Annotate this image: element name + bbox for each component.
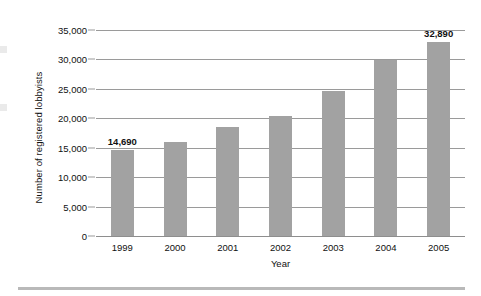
y-axis-tick-mark <box>88 30 95 31</box>
bar-value-label-2005: 32,890 <box>424 28 453 39</box>
y-axis-tick-mark <box>88 236 95 237</box>
bar-2005 <box>427 42 450 236</box>
y-axis-tick-label: 5,000 <box>63 201 87 212</box>
y-axis-tick-label: 15,000 <box>58 142 87 153</box>
y-axis-tick-mark <box>88 206 95 207</box>
bar-2003 <box>322 91 345 236</box>
x-axis-title: Year <box>96 258 465 269</box>
gridline <box>96 59 465 60</box>
footer-divider <box>18 287 465 290</box>
cropped-text-fragment-middle <box>0 104 7 111</box>
y-axis-tick-label: 35,000 <box>58 25 87 36</box>
y-axis-tick-label: 30,000 <box>58 54 87 65</box>
x-axis-tick-label-2003: 2003 <box>323 242 344 253</box>
gridline <box>96 30 465 31</box>
bar-2002 <box>269 116 292 236</box>
bar-value-label-1999: 14,690 <box>108 136 137 147</box>
x-axis-tick-label-2000: 2000 <box>164 242 185 253</box>
x-axis-tick-label-1999: 1999 <box>112 242 133 253</box>
bar-2001 <box>216 127 239 236</box>
y-axis-tick-mark <box>88 118 95 119</box>
x-axis-tick-label-2005: 2005 <box>428 242 449 253</box>
x-axis-tick-label-2004: 2004 <box>375 242 396 253</box>
y-axis-tick-label: 25,000 <box>58 83 87 94</box>
y-axis-tick-mark <box>88 177 95 178</box>
bar-1999 <box>111 150 134 236</box>
y-axis-tick-label: 10,000 <box>58 172 87 183</box>
bar-2004 <box>374 60 397 236</box>
y-axis-title: Number of registered lobbyists <box>33 38 44 238</box>
y-axis-tick-mark <box>88 88 95 89</box>
bar-2000 <box>164 142 187 236</box>
gridline <box>96 89 465 90</box>
x-axis-tick-label-2002: 2002 <box>270 242 291 253</box>
x-axis-tick-label-2001: 2001 <box>217 242 238 253</box>
bar-chart-figure: Number of registered lobbyists 05,00010,… <box>0 0 481 296</box>
y-axis-tick-label: 0 <box>82 231 87 242</box>
y-axis-tick-mark <box>88 147 95 148</box>
x-axis-baseline <box>96 236 465 237</box>
y-axis-tick-label: 20,000 <box>58 113 87 124</box>
plot-area: 05,00010,00015,00020,00025,00030,00035,0… <box>96 30 465 236</box>
y-axis-tick-mark <box>88 59 95 60</box>
cropped-text-fragment-top <box>0 46 7 53</box>
